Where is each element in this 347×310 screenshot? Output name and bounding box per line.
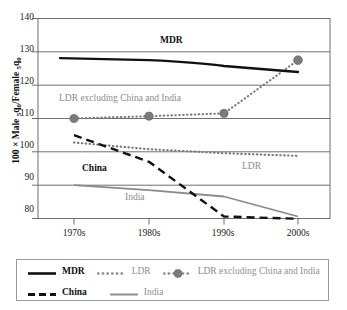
series-line-china — [74, 135, 298, 219]
chart-plot-area: 100 × Male 5q0/Female 5q0 140 130 120 11… — [0, 0, 347, 258]
series-markers-ldr-excluding-china-india — [70, 56, 303, 123]
data-point-marker — [70, 114, 78, 122]
legend-label-ldr: LDR — [132, 266, 151, 276]
annotation-ldr: LDR — [242, 161, 261, 171]
annotation-mdr: MDR — [160, 35, 183, 45]
legend-label-china: China — [62, 287, 87, 297]
legend-swatch-solid-gray-icon — [109, 286, 139, 297]
series-line-mdr — [60, 58, 298, 72]
legend-swatch-dotted-gray-marker-icon — [163, 265, 193, 276]
legend-swatch-solid-black-icon — [27, 265, 57, 276]
legend-label-india: India — [144, 287, 164, 297]
annotation-ldr-excluding-china-india: LDR excluding China and India — [59, 93, 181, 103]
legend-item-mdr[interactable]: MDR — [27, 265, 85, 276]
legend-item-ldr-excluding-china-india[interactable]: LDR excluding China and India — [163, 265, 320, 276]
legend-row-2: China India — [17, 281, 328, 302]
data-point-marker — [294, 56, 303, 65]
legend-item-china[interactable]: China — [27, 286, 87, 297]
figure-container: 100 × Male 5q0/Female 5q0 140 130 120 11… — [0, 0, 347, 310]
annotation-india: India — [125, 192, 145, 202]
annotation-china: China — [82, 163, 107, 173]
legend-label-mdr: MDR — [62, 266, 85, 276]
legend-item-ldr[interactable]: LDR — [97, 265, 151, 276]
legend-row-1: MDR LDR LDR excluding China and India — [17, 260, 328, 281]
data-point-marker — [220, 109, 228, 117]
legend-item-india[interactable]: India — [109, 286, 164, 297]
data-point-marker — [145, 112, 153, 120]
legend-swatch-dashed-black-icon — [27, 286, 57, 297]
series-line-ldr — [74, 143, 298, 156]
legend-swatch-dotted-gray-icon — [97, 265, 127, 276]
series-line-india — [74, 185, 298, 216]
chart-legend: MDR LDR LDR excluding China and India — [16, 259, 329, 301]
legend-label-ldr-excluding-china-india: LDR excluding China and India — [198, 266, 320, 276]
